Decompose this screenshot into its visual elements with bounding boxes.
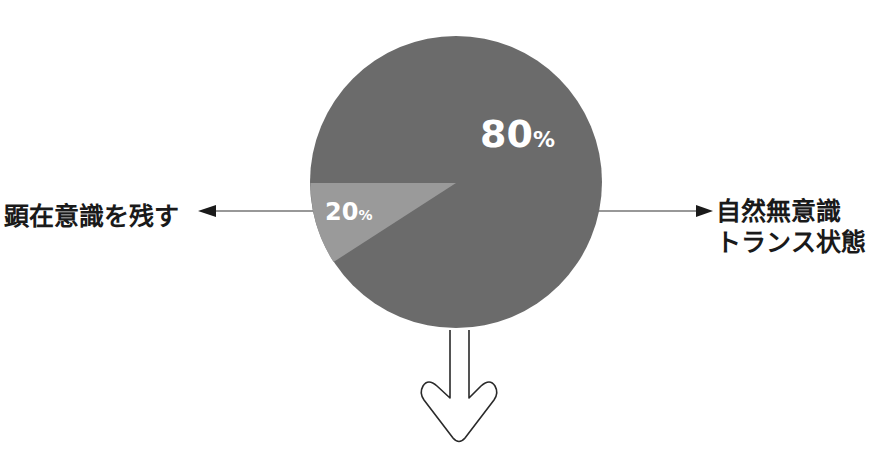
slice-20-value: 20 [325, 198, 358, 226]
right-arrow-icon [596, 205, 713, 217]
slice-80-label: 80% [480, 112, 555, 156]
right-label-line1: 自然無意識 [716, 196, 866, 227]
right-label: 自然無意識 トランス状態 [716, 196, 866, 258]
slice-20-unit: % [358, 207, 372, 223]
left-label: 顕在意識を残す [4, 196, 179, 232]
down-arrow-icon [421, 330, 497, 442]
slice-20-label: 20% [325, 198, 372, 226]
slice-80-value: 80 [480, 112, 533, 156]
pie-chart [310, 36, 602, 328]
pie-slice-80 [310, 36, 602, 328]
left-arrow-icon [198, 205, 316, 217]
slice-80-unit: % [533, 127, 555, 152]
right-label-line2: トランス状態 [716, 227, 866, 258]
